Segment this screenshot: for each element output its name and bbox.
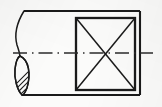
technical-drawing-canvas bbox=[0, 0, 162, 107]
drawing-svg-root bbox=[0, 0, 162, 107]
